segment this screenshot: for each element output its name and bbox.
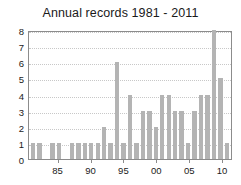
y-axis: 012345678 — [0, 31, 28, 160]
bar[interactable] — [37, 143, 41, 159]
bar[interactable] — [218, 78, 222, 159]
x-axis-tick-label: 85 — [52, 165, 63, 176]
bar[interactable] — [179, 111, 183, 159]
chart-title: Annual records 1981 - 2011 — [0, 6, 241, 20]
bar[interactable] — [57, 143, 61, 159]
bar[interactable] — [128, 95, 132, 160]
y-axis-tick-label: 5 — [19, 74, 24, 85]
bar[interactable] — [83, 143, 87, 159]
bar[interactable] — [173, 111, 177, 159]
y-axis-tick-label: 1 — [19, 138, 24, 149]
x-axis-tick-mark — [123, 160, 124, 163]
y-axis-tick-label: 4 — [19, 90, 24, 101]
bar[interactable] — [192, 111, 196, 159]
bar[interactable] — [108, 143, 112, 159]
x-axis-tick-mark — [222, 160, 223, 163]
bar[interactable] — [147, 111, 151, 159]
y-axis-tick-label: 0 — [19, 155, 24, 166]
y-axis-tick-label: 8 — [19, 26, 24, 37]
bar[interactable] — [50, 143, 54, 159]
bar[interactable] — [141, 111, 145, 159]
x-axis-tick-mark — [189, 160, 190, 163]
bar[interactable] — [186, 143, 190, 159]
x-axis-tick-mark — [156, 160, 157, 163]
bar-series — [29, 32, 231, 159]
x-axis: 859095000510 — [28, 160, 232, 182]
x-axis-tick-label: 90 — [85, 165, 96, 176]
bar[interactable] — [212, 30, 216, 159]
bar[interactable] — [121, 143, 125, 159]
y-axis-tick-label: 3 — [19, 106, 24, 117]
bar[interactable] — [115, 62, 119, 159]
bar[interactable] — [76, 143, 80, 159]
x-axis-tick-mark — [58, 160, 59, 163]
y-axis-tick-label: 7 — [19, 42, 24, 53]
bar[interactable] — [70, 143, 74, 159]
x-axis-tick-label: 95 — [118, 165, 129, 176]
bar-slot — [224, 32, 230, 159]
chart-figure: Annual records 1981 - 2011 012345678 859… — [0, 0, 241, 185]
bar[interactable] — [154, 127, 158, 159]
y-axis-tick-label: 6 — [19, 58, 24, 69]
x-axis-tick-label: 00 — [151, 165, 162, 176]
bar[interactable] — [199, 95, 203, 160]
x-axis-tick-label: 10 — [217, 165, 228, 176]
plot-area — [28, 31, 232, 160]
bar[interactable] — [31, 143, 35, 159]
bar[interactable] — [167, 95, 171, 160]
x-axis-tick-label: 05 — [184, 165, 195, 176]
bar[interactable] — [205, 95, 209, 160]
y-axis-tick-label: 2 — [19, 122, 24, 133]
bar[interactable] — [134, 143, 138, 159]
bar[interactable] — [102, 127, 106, 159]
x-axis-tick-mark — [91, 160, 92, 163]
bar[interactable] — [96, 143, 100, 159]
bar[interactable] — [89, 143, 93, 159]
bar[interactable] — [225, 143, 229, 159]
bar[interactable] — [160, 95, 164, 160]
